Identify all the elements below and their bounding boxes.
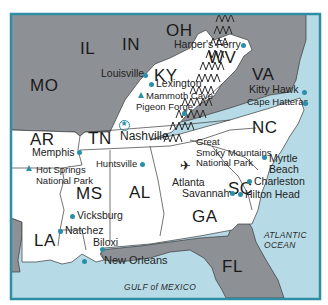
city-label-vicksburg: Vicksburg [77,210,123,221]
city-label-savannah: Savannah [182,188,229,199]
state-label-wv: WV [208,49,236,66]
airport-icon: ✈ [180,159,191,172]
city-dot-hilton-head [238,192,243,197]
state-label-in: IN [122,36,140,53]
state-label-va: VA [252,66,274,83]
park-marker-hot-springs [26,165,32,171]
city-dot-charleston [247,179,252,184]
city-dot-memphis [77,150,82,155]
city-label-lexington: Lexington [156,78,202,89]
city-label-charleston: Charleston [254,176,305,187]
state-label-ga: GA [192,208,218,225]
water-label-atlantic: ATLANTIC OCEAN [264,230,307,250]
city-label-harpers-ferry: Harper's Ferry [174,39,241,50]
city-dot-kitty-hawk [302,90,307,95]
city-label-nashville: Nashville [120,130,169,142]
water-label-line: ATLANTIC [264,230,307,240]
city-dot-natchez [58,229,63,234]
city-dot-pigeon-forge [182,111,187,116]
city-dot-huntsville [140,162,145,167]
water-label-line: OCEAN [264,240,307,250]
city-label-new-orleans: New Orleans [104,255,168,266]
city-label-cape-hatteras: Cape Hatteras [247,97,308,107]
city-label-huntsville: Huntsville [96,159,137,169]
city-dot-vicksburg [70,214,75,219]
park-label-line: National Park [196,158,272,169]
city-label-kitty-hawk: Kitty Hawk [249,84,299,95]
park-label-line: Hot Springs [36,164,93,175]
park-label-line: National Park [36,175,93,186]
state-label-mo: MO [30,77,58,94]
state-label-fl: FL [222,258,243,275]
park-label-mammoth-cave: Mammoth Cave [146,91,213,101]
city-label-louisville: Louisville [101,68,144,79]
park-label-great-smoky: Great Smoky Mountains National Park [196,137,272,169]
state-label-ms: MS [76,185,103,202]
state-label-tn: TN [88,130,112,147]
city-dot-biloxi [100,247,105,252]
city-dot-cape-hatteras [303,101,308,106]
park-label-line: Great [196,137,272,148]
city-label-memphis: Memphis [32,147,75,158]
park-label-hot-springs: Hot Springs National Park [36,164,93,186]
city-dot-louisville [143,73,148,78]
city-label-atlanta: Atlanta [172,177,205,188]
park-marker-mammoth-cave [138,92,144,98]
city-dot-lexington [149,82,154,87]
state-label-la: LA [34,232,56,249]
state-label-al: AL [129,184,151,201]
city-label-natchez: Natchez [65,225,104,236]
city-label-myrtle-beach: MyrtleBeach [269,153,299,175]
state-label-oh: OH [166,22,193,39]
city-dot-new-orleans [82,259,87,264]
city-dot-savannah [230,191,235,196]
state-label-nc: NC [252,119,278,136]
city-dot-harpers-ferry [241,43,246,48]
state-label-il: IL [80,40,95,57]
city-label-hilton-head: Hilton Head [245,189,300,200]
water-label-gulf: GULF of MEXICO [124,283,196,292]
city-label-biloxi: Biloxi [93,237,118,248]
